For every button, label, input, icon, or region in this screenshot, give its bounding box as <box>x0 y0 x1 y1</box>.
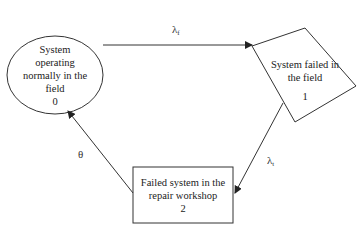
node-1-label: System failed in the field 1 <box>259 58 351 103</box>
edge-label-lambda-t: λt <box>267 154 274 168</box>
edge-label-lambda-f: λf <box>172 23 180 37</box>
node-2-label: Failed system in the repair workshop 2 <box>133 176 233 215</box>
edge-1-to-2 <box>235 103 283 193</box>
node-0-label: System operating normally in the field 0 <box>10 43 100 108</box>
edge-label-theta: θ <box>78 148 83 160</box>
